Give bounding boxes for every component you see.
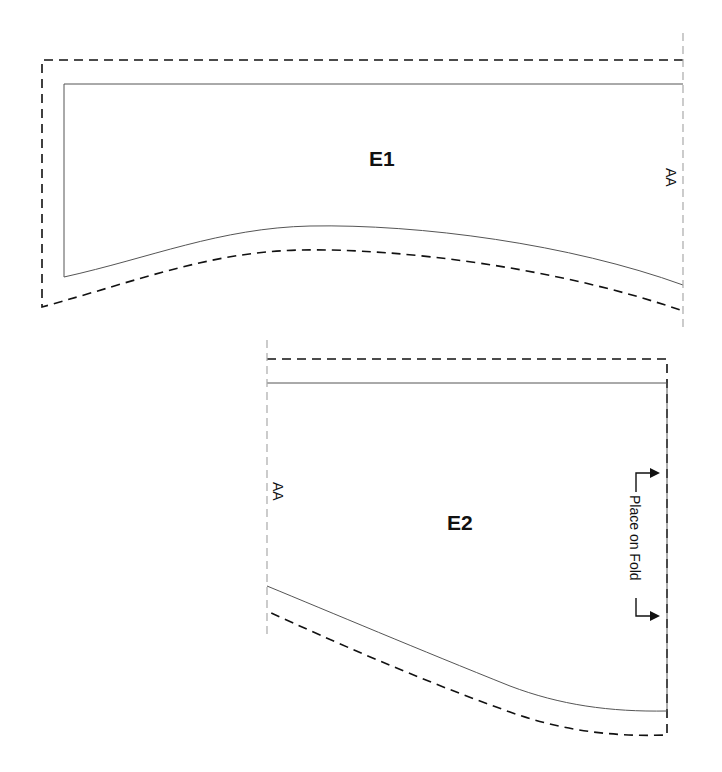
place-on-fold-indicator: Place on Fold [627,468,660,621]
fold-arrowhead-bottom-icon [650,611,660,621]
fold-arrowhead-top-icon [650,468,660,478]
e1-seam-line [64,84,683,285]
fold-arrow-top-icon [636,473,652,492]
e1-cutting-line [42,60,683,311]
e1-piece-label: E1 [369,147,395,170]
e2-match-label: AA [270,482,286,501]
pattern-piece-e2: E2 AA Place on Fold [267,340,667,735]
pattern-sheet: E1 AA E2 AA Place on Fold [0,0,722,772]
e2-piece-label: E2 [447,511,473,534]
e2-seam-line [267,383,667,711]
e2-cutting-line [267,359,667,735]
fold-instruction-text: Place on Fold [627,495,643,581]
e1-match-label: AA [663,168,679,187]
fold-arrow-bottom-icon [636,598,652,616]
pattern-piece-e1: E1 AA [42,33,683,330]
